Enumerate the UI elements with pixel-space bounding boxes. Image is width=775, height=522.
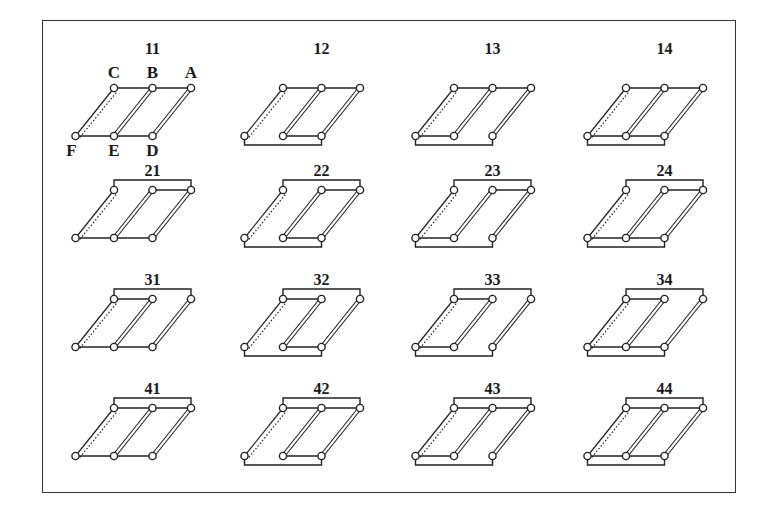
node-A: [527, 186, 534, 193]
link-CF: [245, 190, 286, 240]
node-C: [110, 404, 117, 411]
link-BE: [282, 87, 323, 137]
panel-label: 14: [657, 40, 673, 57]
node-A: [699, 295, 706, 302]
link-BE: [282, 189, 323, 239]
node-B: [661, 84, 668, 91]
node-A: [187, 186, 194, 193]
node-F: [241, 132, 248, 139]
node-label-F: F: [66, 141, 76, 160]
node-C: [450, 84, 457, 91]
top-bracket-CA: [454, 289, 531, 295]
bottom-bracket-FD: [245, 351, 322, 356]
node-C: [110, 84, 117, 91]
link-BE: [453, 298, 494, 348]
node-F: [241, 343, 248, 350]
link-CF: [416, 299, 457, 349]
node-C: [110, 295, 117, 302]
node-A: [527, 404, 534, 411]
link-AD: [151, 87, 192, 137]
link-CF: [416, 88, 457, 138]
node-label-D: D: [146, 141, 158, 160]
node-F: [72, 452, 79, 459]
panel-11: 11CBAFED: [66, 40, 198, 160]
node-B: [318, 404, 325, 411]
link-AD: [491, 407, 532, 457]
panel-label: 24: [657, 162, 673, 179]
node-D: [661, 452, 668, 459]
link-AD: [663, 87, 704, 137]
node-F: [584, 452, 591, 459]
node-B: [318, 84, 325, 91]
panel-24: 24: [584, 162, 707, 247]
panel-31: 31: [72, 271, 195, 351]
node-D: [149, 452, 156, 459]
node-C: [450, 404, 457, 411]
node-C: [622, 186, 629, 193]
link-AD: [320, 407, 361, 457]
link-BE: [625, 189, 666, 239]
node-B: [489, 295, 496, 302]
panel-label: 13: [485, 40, 501, 57]
panel-label: 23: [485, 162, 501, 179]
link-BE: [113, 87, 154, 137]
node-E: [110, 452, 117, 459]
bottom-bracket-FD: [245, 460, 322, 465]
top-bracket-CA: [626, 398, 703, 404]
bottom-bracket-FD: [588, 351, 665, 356]
bottom-bracket-FD: [245, 140, 322, 145]
panel-14: 14: [584, 40, 707, 145]
bottom-bracket-FD: [416, 242, 493, 247]
node-label-B: B: [147, 63, 158, 82]
panel-label: 44: [657, 380, 673, 397]
link-AD: [151, 189, 192, 239]
top-bracket-CA: [626, 289, 703, 295]
link-BE: [453, 87, 494, 137]
node-C: [279, 404, 286, 411]
bottom-bracket-FD: [588, 460, 665, 465]
link-CF: [588, 408, 629, 458]
panel-label: 33: [485, 271, 501, 288]
node-E: [110, 234, 117, 241]
link-BE: [453, 189, 494, 239]
link-BE: [625, 298, 666, 348]
node-D: [318, 234, 325, 241]
link-CF: [416, 190, 457, 240]
node-label-A: A: [185, 63, 198, 82]
link-AD: [151, 407, 192, 457]
node-D: [489, 234, 496, 241]
top-bracket-CA: [283, 398, 360, 404]
node-E: [279, 132, 286, 139]
bottom-bracket-FD: [245, 242, 322, 247]
node-E: [279, 234, 286, 241]
node-A: [187, 404, 194, 411]
node-C: [622, 84, 629, 91]
panel-label: 31: [145, 271, 161, 288]
node-F: [584, 234, 591, 241]
link-CF: [416, 408, 457, 458]
node-A: [187, 295, 194, 302]
node-label-C: C: [108, 63, 120, 82]
link-AD: [491, 298, 532, 348]
node-F: [412, 234, 419, 241]
node-C: [279, 84, 286, 91]
top-bracket-CA: [114, 289, 191, 295]
link-BE: [282, 407, 323, 457]
link-BE: [625, 87, 666, 137]
panel-label: 32: [314, 271, 330, 288]
node-C: [110, 186, 117, 193]
top-bracket-CA: [454, 398, 531, 404]
node-C: [622, 404, 629, 411]
node-A: [356, 186, 363, 193]
node-F: [72, 343, 79, 350]
node-B: [149, 84, 156, 91]
node-B: [661, 404, 668, 411]
node-A: [699, 84, 706, 91]
node-C: [450, 295, 457, 302]
panel-23: 23: [412, 162, 535, 247]
node-F: [412, 343, 419, 350]
bottom-bracket-FD: [416, 140, 493, 145]
link-CF: [76, 299, 117, 349]
node-C: [622, 295, 629, 302]
node-F: [241, 452, 248, 459]
